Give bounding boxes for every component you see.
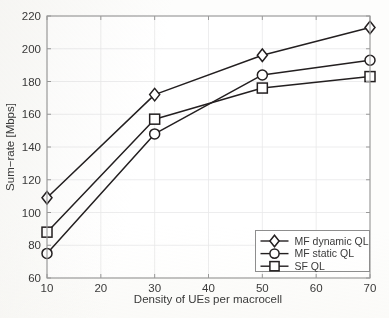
marker-square (150, 114, 160, 124)
x-tick-label: 60 (310, 282, 323, 294)
legend-label[interactable]: SF QL (295, 260, 326, 272)
x-tick-label: 10 (41, 282, 54, 294)
chart-figure: 10203040506070 6080100120140160180200220… (0, 0, 389, 318)
y-tick-label: 180 (22, 76, 41, 88)
marker-circle (270, 249, 279, 258)
marker-circle (150, 129, 160, 139)
y-tick-label: 80 (28, 239, 41, 251)
y-tick-label: 160 (22, 108, 41, 120)
y-tick-label: 200 (22, 43, 41, 55)
marker-square (257, 83, 267, 93)
legend-label[interactable]: MF static QL (295, 247, 355, 259)
y-tick-label: 60 (28, 272, 41, 284)
y-axis-title: Sum−rate [Mbps] (4, 103, 16, 191)
x-axis-title: Density of UEs per macrocell (134, 293, 282, 305)
legend-label[interactable]: MF dynamic QL (295, 235, 369, 247)
y-tick-label: 100 (22, 207, 41, 219)
legend[interactable]: MF dynamic QLMF static QLSF QL (256, 231, 370, 272)
sum-rate-line-chart: 10203040506070 6080100120140160180200220… (0, 0, 389, 318)
x-tick-label: 20 (94, 282, 107, 294)
y-tick-label: 220 (22, 10, 41, 22)
marker-square (270, 262, 279, 271)
y-tick-label: 120 (22, 174, 41, 186)
y-tick-label: 140 (22, 141, 41, 153)
x-tick-label: 70 (364, 282, 377, 294)
marker-circle (257, 70, 267, 80)
